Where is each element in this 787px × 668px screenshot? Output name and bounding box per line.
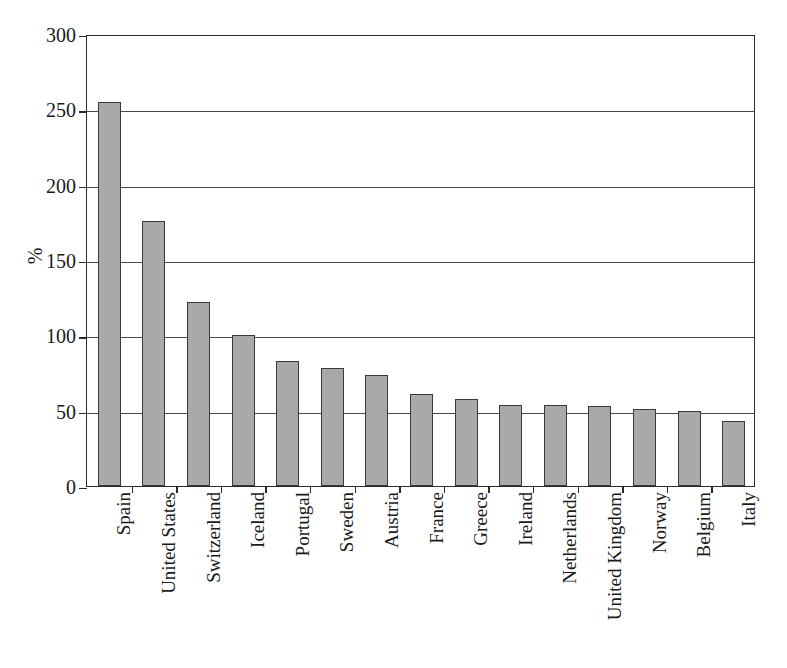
x-tick-label: Italy: [733, 492, 752, 527]
bars-layer: [87, 36, 754, 486]
x-tick-label: Greece: [465, 492, 484, 546]
bar: [187, 302, 210, 486]
bar: [232, 335, 255, 486]
bar: [410, 394, 433, 486]
y-tick-label: 200: [32, 176, 76, 196]
x-tick-label: Spain: [108, 492, 127, 535]
y-tick-label: 50: [32, 402, 76, 422]
y-tick-mark: [79, 488, 87, 489]
x-tick-label: United States: [153, 492, 172, 594]
bar: [98, 102, 121, 486]
y-tick-label: 100: [32, 326, 76, 346]
bar: [499, 405, 522, 486]
bar-chart-figure: % 050100150200250300 SpainUnited StatesS…: [0, 0, 787, 668]
x-tick-label: France: [421, 492, 440, 544]
x-axis-tick-labels: SpainUnited StatesSwitzerlandIcelandPort…: [86, 492, 755, 668]
bar: [678, 411, 701, 486]
y-tick-mark: [79, 262, 87, 263]
bar: [455, 399, 478, 486]
bar: [276, 361, 299, 486]
y-tick-label: 150: [32, 251, 76, 271]
x-tick-label: Iceland: [242, 492, 261, 548]
x-tick-label: Austria: [376, 492, 395, 548]
y-tick-mark: [79, 337, 87, 338]
x-tick-label: Sweden: [331, 492, 350, 552]
x-tick-label: Ireland: [510, 492, 529, 546]
y-tick-mark: [79, 413, 87, 414]
bar: [365, 375, 388, 486]
x-tick-label: Norway: [644, 492, 663, 553]
x-tick-label: Belgium: [688, 492, 707, 557]
y-tick-label: 0: [32, 477, 76, 497]
y-tick-label: 300: [32, 25, 76, 45]
y-axis-tick-labels: 050100150200250300: [14, 0, 76, 668]
x-tick-label: United Kingdom: [599, 492, 618, 620]
plot-area: [86, 35, 755, 487]
x-tick-label: Switzerland: [198, 492, 217, 583]
y-tick-mark: [79, 36, 87, 37]
y-tick-mark: [79, 187, 87, 188]
bar: [321, 368, 344, 486]
y-tick-label: 250: [32, 100, 76, 120]
bar: [588, 406, 611, 486]
y-tick-mark: [79, 111, 87, 112]
x-tick-label: Netherlands: [554, 492, 573, 584]
bar: [142, 221, 165, 486]
bar: [722, 421, 745, 486]
bar: [544, 405, 567, 486]
bar: [633, 409, 656, 486]
x-tick-label: Portugal: [287, 492, 306, 556]
